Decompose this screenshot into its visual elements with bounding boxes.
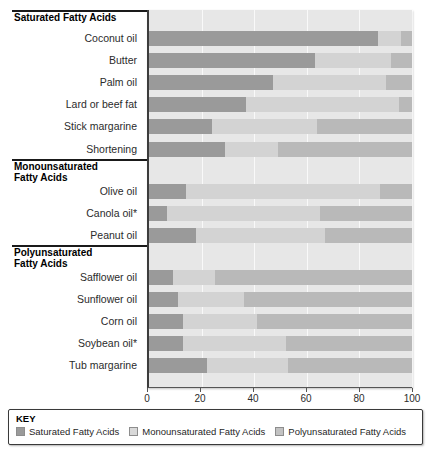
legend-swatch-poly [275, 427, 284, 436]
bar-row [149, 97, 412, 112]
category-label: Coconut oil [84, 32, 137, 44]
bar-segment-poly [401, 31, 412, 46]
bar-segment-poly [325, 228, 412, 243]
bar-row [149, 336, 412, 351]
bar-segment-sat [149, 336, 183, 351]
bar-segment-mono [196, 228, 325, 243]
bar-row [149, 53, 412, 68]
group-header-line: Polyunsaturated [14, 247, 92, 259]
x-tick-label: 40 [247, 393, 258, 404]
category-label: Sunflower oil [77, 293, 137, 305]
bar-segment-sat [149, 206, 167, 221]
x-axis: 020406080100 [147, 388, 412, 408]
legend-swatch-sat [16, 427, 25, 436]
bar-segment-mono [212, 119, 317, 134]
category-label: Stick margarine [64, 120, 137, 132]
legend-label: Monounsaturated Fatty Acids [142, 426, 265, 437]
bar-segment-sat [149, 31, 378, 46]
x-tick-label: 20 [194, 393, 205, 404]
bar-segment-mono [183, 336, 286, 351]
category-label: Olive oil [100, 185, 137, 197]
bar-segment-poly [288, 358, 412, 373]
bar-segment-mono [167, 206, 320, 221]
x-tick-label: 80 [353, 393, 364, 404]
legend-item: Monounsaturated Fatty Acids [129, 426, 265, 437]
bar-segment-poly [320, 206, 412, 221]
legend-label: Saturated Fatty Acids [29, 426, 119, 437]
bar-segment-poly [317, 119, 412, 134]
category-axis-labels: Saturated Fatty AcidsCoconut oilButterPa… [0, 10, 147, 388]
bar-segment-poly [386, 75, 412, 90]
category-label: Lard or beef fat [66, 98, 137, 110]
legend-item: Saturated Fatty Acids [16, 426, 119, 437]
group-header-line: Fatty Acids [14, 172, 98, 184]
legend-item: Polyunsaturated Fatty Acids [275, 426, 406, 437]
legend-swatch-mono [129, 427, 138, 436]
category-label: Butter [109, 54, 137, 66]
x-tick [200, 388, 201, 392]
category-label: Canola oil* [86, 207, 137, 219]
x-tick [253, 388, 254, 392]
bar-row [149, 292, 412, 307]
chart-page: Saturated Fatty AcidsCoconut oilButterPa… [0, 0, 433, 453]
bar-segment-mono [178, 292, 244, 307]
x-tick [147, 388, 148, 392]
bar-segment-sat [149, 228, 196, 243]
legend-label: Polyunsaturated Fatty Acids [288, 426, 406, 437]
bar-segment-sat [149, 270, 173, 285]
bar-segment-poly [391, 53, 412, 68]
bar-segment-mono [273, 75, 386, 90]
bar-row [149, 119, 412, 134]
bar-row [149, 358, 412, 373]
bar-segment-poly [257, 314, 412, 329]
bar-segment-sat [149, 142, 225, 157]
group-header-line: Fatty Acids [14, 258, 92, 270]
bar-segment-sat [149, 358, 207, 373]
bar-row [149, 270, 412, 285]
bar-segment-poly [215, 270, 412, 285]
group-header: PolyunsaturatedFatty Acids [14, 247, 92, 270]
bar-segment-mono [315, 53, 391, 68]
category-label: Shortening [86, 143, 137, 155]
bar-rows [149, 10, 412, 387]
category-label: Corn oil [101, 315, 137, 327]
bar-segment-sat [149, 53, 315, 68]
bar-segment-poly [399, 97, 412, 112]
category-label: Soybean oil* [78, 337, 137, 349]
bar-segment-sat [149, 314, 183, 329]
legend-key: KEY Saturated Fatty AcidsMonounsaturated… [8, 409, 423, 445]
bar-segment-mono [246, 97, 399, 112]
category-label: Tub margarine [69, 359, 137, 371]
bar-segment-mono [183, 314, 257, 329]
bar-row [149, 75, 412, 90]
bar-segment-sat [149, 75, 273, 90]
bar-segment-mono [207, 358, 289, 373]
bar-segment-poly [244, 292, 412, 307]
x-tick-label: 60 [300, 393, 311, 404]
bar-segment-poly [278, 142, 412, 157]
bar-segment-mono [378, 31, 402, 46]
group-header-line: Monounsaturated [14, 161, 98, 173]
bar-segment-sat [149, 184, 186, 199]
legend-title: KEY [16, 413, 416, 424]
x-tick [412, 388, 413, 392]
bar-row [149, 142, 412, 157]
x-tick [306, 388, 307, 392]
bar-row [149, 206, 412, 221]
gridline [412, 10, 413, 387]
x-tick [359, 388, 360, 392]
x-tick-label: 0 [144, 393, 150, 404]
legend-items: Saturated Fatty AcidsMonounsaturated Fat… [16, 426, 416, 437]
x-tick-label: 100 [404, 393, 421, 404]
bar-segment-sat [149, 97, 246, 112]
category-label: Safflower oil [80, 271, 137, 283]
bar-segment-poly [286, 336, 412, 351]
bar-segment-mono [186, 184, 381, 199]
bar-row [149, 314, 412, 329]
stacked-bar-chart: Saturated Fatty AcidsCoconut oilButterPa… [0, 0, 433, 400]
bar-segment-mono [225, 142, 278, 157]
bar-row [149, 228, 412, 243]
bar-segment-sat [149, 119, 212, 134]
category-label: Peanut oil [90, 229, 137, 241]
group-header-line: Saturated Fatty Acids [14, 12, 116, 24]
